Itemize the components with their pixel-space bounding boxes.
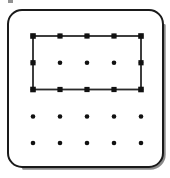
rectangle-corner-peg-4 — [30, 87, 36, 93]
peg-r2-c2 — [58, 60, 63, 65]
rectangle-edge-peg — [111, 33, 116, 38]
peg-r5-c3 — [85, 141, 90, 146]
peg-r4-c3 — [85, 114, 90, 119]
rectangle-edge-peg — [30, 60, 35, 65]
rectangle-edge-peg — [57, 33, 62, 38]
scan-mark-artifact — [8, 0, 13, 3]
geoboard-canvas — [0, 0, 170, 178]
peg-r5-c1 — [31, 141, 36, 146]
rectangle-corner-peg-3 — [138, 87, 144, 93]
rectangle-edge-peg — [84, 87, 89, 92]
peg-r4-c5 — [139, 114, 144, 119]
peg-r5-c4 — [112, 141, 117, 146]
rectangle-edge-peg — [111, 87, 116, 92]
peg-r4-c1 — [31, 114, 36, 119]
peg-r4-c4 — [112, 114, 117, 119]
peg-r4-c2 — [58, 114, 63, 119]
peg-r2-c4 — [112, 60, 117, 65]
peg-r5-c2 — [58, 141, 63, 146]
rectangle-corner-peg-1 — [30, 33, 36, 39]
peg-r5-c5 — [139, 141, 144, 146]
rectangle-edge-peg — [57, 87, 62, 92]
rectangle-edge-peg — [84, 33, 89, 38]
rectangle-corner-peg-2 — [138, 33, 144, 39]
rectangle-edge-peg — [138, 60, 143, 65]
geoboard-figure — [0, 0, 170, 178]
peg-r2-c3 — [85, 60, 90, 65]
